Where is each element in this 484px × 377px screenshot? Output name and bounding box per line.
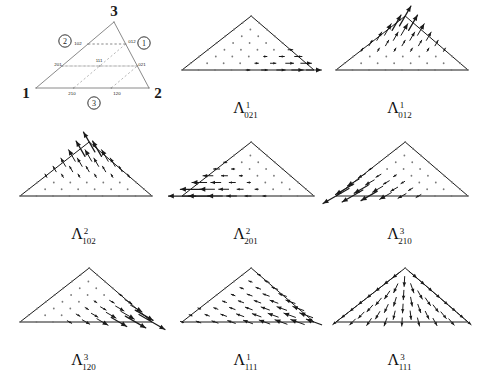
ref-label-102: 102 [74, 41, 82, 46]
caption-subscript: 111 [245, 362, 258, 372]
edge-marker-3: 3 [88, 97, 100, 109]
cell-p111a: Λ1111 [168, 252, 328, 377]
caption-subscript: 111 [399, 362, 412, 372]
svg-text:1: 1 [142, 39, 146, 48]
panel-p210 [322, 126, 482, 226]
ref-label-201: 201 [54, 62, 62, 67]
vector-field [361, 6, 446, 51]
vector-field [333, 271, 471, 326]
vector-field [323, 168, 421, 204]
ref-label-012: 012 [128, 39, 136, 44]
lattice-dots [19, 182, 153, 197]
reference-outline [36, 22, 149, 88]
edge-marker-1: 1 [138, 37, 150, 49]
vertex-label-2: 2 [154, 85, 162, 101]
caption-superscript: 2 [84, 226, 89, 236]
ref-label-021: 021 [138, 62, 146, 67]
triangle-outline [336, 142, 468, 196]
panel-caption-p012: Λ1012 [322, 100, 482, 119]
cell-p201: Λ2201 [168, 126, 328, 251]
triangle-outline [182, 268, 314, 322]
lattice-dots [19, 267, 114, 323]
lattice-dots [233, 141, 315, 197]
triangle-outline [20, 268, 152, 322]
caption-subscript: 021 [244, 110, 258, 120]
cell-p102: Λ2102 [6, 126, 166, 251]
svg-text:3: 3 [92, 99, 96, 108]
panel-caption-p120: Λ3120 [6, 352, 166, 371]
vector-field [45, 132, 130, 177]
caption-superscript: 1 [246, 352, 251, 362]
caption-lambda: Λ [234, 351, 246, 368]
lattice-dots [404, 267, 406, 269]
caption-superscript: 1 [246, 100, 251, 110]
triangle-outline [182, 142, 314, 196]
cell-p111b: Λ3111 [322, 252, 482, 377]
cell-reference: 123102012201111021210120123 [6, 0, 166, 125]
panel-p111b [322, 252, 482, 352]
panel-caption-p021: Λ1021 [168, 100, 328, 119]
panel-caption-p210: Λ3210 [322, 226, 482, 245]
panel-caption-p102: Λ2102 [6, 226, 166, 245]
panel-caption-p111b: Λ3111 [322, 352, 482, 371]
triangle-outline [182, 16, 314, 70]
triangle-outline [336, 268, 468, 322]
reference-triangle-panel: 123102012201111021210120123 [6, 0, 166, 112]
caption-subscript: 120 [82, 362, 96, 372]
vector-field [168, 161, 266, 198]
caption-subscript: 201 [244, 236, 258, 246]
panel-p201 [168, 126, 328, 226]
caption-superscript: 1 [400, 100, 405, 110]
vector-field [246, 49, 321, 73]
caption-subscript: 012 [398, 110, 412, 120]
panel-p102 [6, 126, 166, 226]
caption-superscript: 2 [246, 226, 251, 236]
triangle-outline [20, 142, 152, 196]
vertex-label-1: 1 [22, 85, 30, 101]
caption-superscript: 3 [400, 226, 405, 236]
panel-p120 [6, 252, 166, 352]
caption-superscript: 3 [84, 352, 89, 362]
ref-label-210: 210 [68, 91, 76, 96]
panel-caption-p111a: Λ1111 [168, 352, 328, 371]
vector-field [180, 274, 321, 325]
figure-canvas: 123102012201111021210120123Λ1021Λ1012Λ21… [0, 0, 484, 377]
lattice-dots [378, 141, 469, 197]
lattice-dots [181, 15, 283, 71]
cell-p012: Λ1012 [322, 0, 482, 125]
svg-text:2: 2 [63, 37, 67, 46]
cell-p210: Λ3210 [322, 126, 482, 251]
ref-label-120: 120 [113, 91, 121, 96]
caption-subscript: 210 [398, 236, 412, 246]
caption-subscript: 102 [82, 236, 96, 246]
cell-p120: Λ3120 [6, 252, 166, 377]
caption-superscript: 3 [400, 352, 405, 362]
panel-p111a [168, 252, 328, 352]
panel-p021 [168, 0, 328, 100]
panel-p012 [322, 0, 482, 100]
lattice-dots [335, 56, 469, 71]
vertex-label-3: 3 [110, 3, 118, 19]
triangle-outline [336, 16, 468, 70]
vector-field [67, 294, 165, 330]
ref-label-111: 111 [96, 58, 103, 63]
panel-caption-p201: Λ2201 [168, 226, 328, 245]
caption-lambda: Λ [388, 351, 400, 368]
edge-marker-2: 2 [59, 35, 71, 47]
cell-p021: Λ1021 [168, 0, 328, 125]
